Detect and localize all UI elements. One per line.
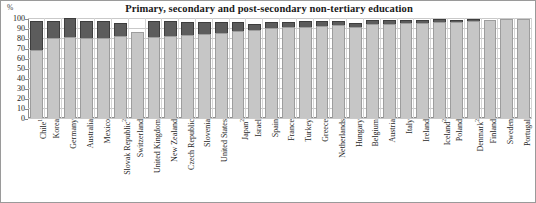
bar-segment-lower[interactable] (97, 38, 110, 118)
bar-segment-lower[interactable] (332, 25, 345, 118)
bar-group[interactable] (280, 18, 297, 118)
bar-segment-lower[interactable] (265, 28, 278, 118)
bar-group[interactable] (129, 18, 146, 118)
bar-stack[interactable] (232, 22, 245, 118)
bar-segment-lower[interactable] (400, 23, 413, 118)
bar-segment-lower[interactable] (433, 22, 446, 118)
bar-segment-lower[interactable] (30, 50, 43, 118)
bar-group[interactable] (364, 18, 381, 118)
bar-segment-lower[interactable] (383, 24, 396, 118)
bar-group[interactable] (465, 18, 482, 118)
bar-segment-lower[interactable] (131, 32, 144, 118)
bar-segment-lower[interactable] (517, 19, 530, 118)
bar-group[interactable] (448, 18, 465, 118)
bar-segment-lower[interactable] (215, 33, 228, 118)
bar-group[interactable] (330, 18, 347, 118)
bar-segment-upper[interactable] (148, 21, 161, 37)
bar-stack[interactable] (450, 20, 463, 118)
bar-segment-lower[interactable] (181, 35, 194, 118)
bar-group[interactable] (297, 18, 314, 118)
bar-group[interactable] (78, 18, 95, 118)
bar-segment-lower[interactable] (282, 27, 295, 118)
bar-group[interactable] (230, 18, 247, 118)
bar-stack[interactable] (484, 20, 497, 118)
bar-segment-lower[interactable] (467, 21, 480, 118)
bar-segment-lower[interactable] (316, 26, 329, 118)
bar-segment-lower[interactable] (164, 36, 177, 118)
bar-group[interactable] (263, 18, 280, 118)
bar-group[interactable] (515, 18, 532, 118)
bar-segment-lower[interactable] (114, 36, 127, 118)
bar-segment-lower[interactable] (232, 31, 245, 118)
bar-group[interactable] (314, 18, 331, 118)
bar-stack[interactable] (467, 19, 480, 118)
bar-group[interactable] (398, 18, 415, 118)
bar-group[interactable] (179, 18, 196, 118)
bar-stack[interactable] (332, 21, 345, 118)
bar-group[interactable] (28, 18, 45, 118)
bar-segment-lower[interactable] (366, 24, 379, 118)
bar-segment-upper[interactable] (181, 22, 194, 35)
bar-segment-lower[interactable] (416, 23, 429, 118)
bar-stack[interactable] (181, 22, 194, 118)
bar-group[interactable] (482, 18, 499, 118)
bar-stack[interactable] (400, 20, 413, 118)
bar-stack[interactable] (248, 24, 261, 118)
bar-segment-lower[interactable] (64, 37, 77, 118)
bar-segment-upper[interactable] (47, 21, 60, 38)
bar-stack[interactable] (366, 20, 379, 118)
bar-group[interactable] (45, 18, 62, 118)
bar-segment-lower[interactable] (47, 38, 60, 118)
bar-stack[interactable] (349, 23, 362, 118)
bar-stack[interactable] (282, 22, 295, 118)
bar-group[interactable] (196, 18, 213, 118)
bar-stack[interactable] (500, 19, 513, 118)
bar-segment-upper[interactable] (114, 23, 127, 36)
bar-segment-lower[interactable] (484, 20, 497, 118)
bar-stack[interactable] (64, 18, 77, 118)
bar-stack[interactable] (97, 21, 110, 118)
bar-segment-lower[interactable] (349, 27, 362, 118)
bar-segment-lower[interactable] (198, 34, 211, 118)
bar-stack[interactable] (433, 19, 446, 118)
bar-stack[interactable] (114, 23, 127, 118)
bar-stack[interactable] (30, 21, 43, 118)
bar-stack[interactable] (164, 21, 177, 118)
bar-group[interactable] (498, 18, 515, 118)
bar-segment-upper[interactable] (164, 21, 177, 36)
bar-group[interactable] (162, 18, 179, 118)
bar-segment-upper[interactable] (80, 21, 93, 38)
bar-stack[interactable] (517, 19, 530, 118)
bar-group[interactable] (414, 18, 431, 118)
bar-group[interactable] (112, 18, 129, 118)
bar-segment-upper[interactable] (97, 21, 110, 38)
bar-stack[interactable] (198, 22, 211, 118)
bar-stack[interactable] (47, 21, 60, 118)
bar-segment-lower[interactable] (148, 37, 161, 118)
bar-stack[interactable] (131, 32, 144, 118)
bar-stack[interactable] (383, 20, 396, 118)
bar-segment-upper[interactable] (30, 21, 43, 50)
bar-group[interactable] (381, 18, 398, 118)
bar-segment-lower[interactable] (248, 30, 261, 118)
bar-stack[interactable] (316, 21, 329, 118)
bar-segment-upper[interactable] (64, 18, 77, 37)
bar-group[interactable] (431, 18, 448, 118)
bar-segment-lower[interactable] (450, 22, 463, 118)
bar-stack[interactable] (215, 22, 228, 118)
bar-stack[interactable] (148, 21, 161, 118)
bar-segment-upper[interactable] (232, 22, 245, 31)
bar-group[interactable] (347, 18, 364, 118)
bar-stack[interactable] (416, 20, 429, 118)
bar-group[interactable] (146, 18, 163, 118)
bar-stack[interactable] (265, 22, 278, 118)
bar-segment-lower[interactable] (500, 19, 513, 118)
bar-segment-upper[interactable] (198, 22, 211, 34)
bar-group[interactable] (62, 18, 79, 118)
bar-stack[interactable] (80, 21, 93, 118)
bar-group[interactable] (246, 18, 263, 118)
bar-segment-lower[interactable] (80, 38, 93, 118)
bar-segment-lower[interactable] (299, 27, 312, 118)
bar-stack[interactable] (299, 21, 312, 118)
bar-group[interactable] (95, 18, 112, 118)
